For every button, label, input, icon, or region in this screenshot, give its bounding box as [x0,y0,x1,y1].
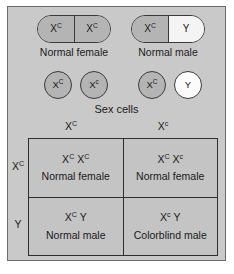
punnett-cell: XC XC Normal female [29,139,123,197]
female-parent-genotype: XC XC [37,15,111,43]
column-header-2: Xc [120,120,206,132]
allele-symbol: XC [50,24,62,34]
allele-symbol: Y [183,24,190,34]
male-parent-genotype: XC Y [131,15,205,43]
male-allele-2: Y [168,16,204,42]
female-allele-1: XC [38,16,74,42]
gamete-circle-2: Xc [80,71,108,99]
gamete-circle-3: XC [138,71,166,99]
allele-symbol: XC [144,24,156,34]
gamete-circle-1: XC [44,71,72,99]
allele-symbol: XC [12,160,24,172]
punnett-column-headers: XC Xc [8,120,225,136]
sex-cells-row: XC Xc XC Y [8,71,225,101]
punnett-grid: XC XC Normal female XC Xc Normal female … [28,138,218,256]
capsule-divider [74,16,75,42]
female-parent-label: Normal female [26,46,122,58]
punnett-cell: XC Xc Normal female [124,139,218,197]
punnett-cell: Xc Y Colorblind male [124,198,218,256]
allele-symbol: XC [86,24,98,34]
female-allele-2: XC [74,16,110,42]
row-header-2: Y [9,218,27,230]
row-header-1: XC [9,160,27,172]
punnett-cell: XC Y Normal male [29,198,123,256]
gamete-circle-4: Y [174,71,202,99]
allele-symbol: Y [185,80,191,90]
capsule-divider [168,16,169,42]
punnett-row-headers: XC Y [8,138,28,256]
male-parent: XC Y Normal male [120,15,216,58]
allele-symbol: XC [65,120,77,132]
cell-genotype: XC XC [62,154,89,165]
sex-cells-label: Sex cells [8,103,225,115]
cell-phenotype: Normal male [46,230,106,241]
cell-phenotype: Normal female [136,171,204,182]
allele-symbol: XC [52,80,63,90]
parents-row: XC XC Normal female XC Y Normal male [8,15,225,67]
punnett-square-figure: XC XC Normal female XC Y Normal male [7,6,226,261]
cell-phenotype: Colorblind male [134,230,207,241]
cell-genotype: XC Y [65,212,87,223]
female-parent: XC XC Normal female [26,15,122,58]
allele-symbol: Xc [158,120,169,132]
male-allele-1: XC [132,16,168,42]
allele-symbol: Y [14,218,21,230]
allele-symbol: XC [146,80,157,90]
allele-symbol: Xc [89,80,99,90]
cell-genotype: XC Xc [157,154,183,165]
male-parent-label: Normal male [120,46,216,58]
cell-genotype: Xc Y [160,212,180,223]
column-header-1: XC [28,120,114,132]
cell-phenotype: Normal female [42,171,110,182]
